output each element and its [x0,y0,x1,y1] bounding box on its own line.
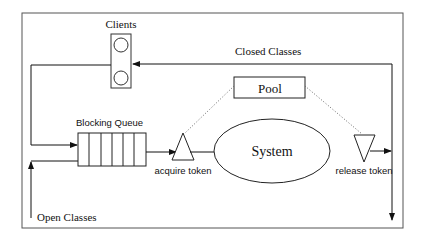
open-classes-label: Open Classes [37,211,97,223]
pool-to-acquire-dotted [185,86,234,133]
release-token-triangle [354,135,375,162]
clients-label: Clients [105,18,136,30]
diagram-canvas: Clients Closed Classes Open Classes Bloc… [0,0,423,238]
blocking-queue-label: Blocking Queue [76,117,143,128]
closed-classes-label: Closed Classes [235,45,301,57]
release-token-label: release token [335,165,392,176]
system-label: System [251,144,292,159]
pool-to-release-dotted [305,86,362,134]
acquire-token-label: acquire token [154,165,211,176]
blocking-queue [78,133,146,166]
pool-label: Pool [258,81,282,96]
acquire-token-triangle [172,133,194,160]
clients-node: Clients [105,18,136,88]
